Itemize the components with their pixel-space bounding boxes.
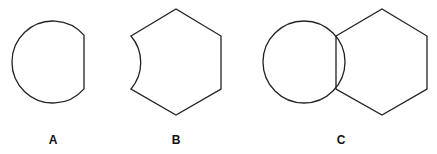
label-c: C xyxy=(331,133,351,147)
shape-b-cut-hexagon xyxy=(131,9,221,115)
label-b: B xyxy=(166,133,186,147)
shape-a-cut-circle xyxy=(12,21,84,103)
label-a: A xyxy=(43,133,63,147)
shape-c-circle xyxy=(263,21,345,103)
shape-c-hexagon xyxy=(336,9,427,115)
shapes-diagram xyxy=(0,0,437,154)
figure-canvas: A B C xyxy=(0,0,437,154)
